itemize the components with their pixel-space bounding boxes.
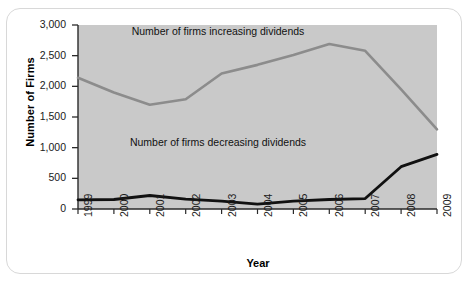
x-axis-tick-label: 2005 <box>297 194 309 217</box>
x-axis-tick-label: 2007 <box>369 194 381 217</box>
y-axis-tick-label: 1,000 <box>20 141 66 153</box>
y-axis-tick-label: 3,000 <box>20 18 66 30</box>
x-axis-tick-label: 2009 <box>441 194 453 217</box>
x-axis-tick-label: 2003 <box>226 194 238 217</box>
y-axis-tick-label: 2,500 <box>20 49 66 61</box>
chart-figure: Number of Firms Year 05001,0001,5002,000… <box>0 0 474 288</box>
x-axis-tick-label: 2001 <box>154 194 166 217</box>
y-axis-tick-label: 2,000 <box>20 79 66 91</box>
y-axis-tick-label: 1,500 <box>20 110 66 122</box>
x-axis-tick-label: 1999 <box>82 194 94 217</box>
series-annotation-label: Number of firms increasing dividends <box>132 25 305 37</box>
x-axis-tick-label: 2008 <box>405 194 417 217</box>
y-axis-tick-label: 0 <box>20 202 66 214</box>
y-axis-tick-label: 500 <box>20 171 66 183</box>
x-axis-tick-marks <box>78 209 437 214</box>
series-annotation-label: Number of firms decreasing dividends <box>130 136 306 148</box>
x-axis-tick-label: 2002 <box>190 194 202 217</box>
x-axis-tick-label: 2006 <box>333 194 345 217</box>
y-axis-tick-marks <box>72 25 78 209</box>
x-axis-tick-label: 2004 <box>262 194 274 217</box>
x-axis-tick-label: 2000 <box>118 194 130 217</box>
x-axis-title: Year <box>78 257 438 269</box>
